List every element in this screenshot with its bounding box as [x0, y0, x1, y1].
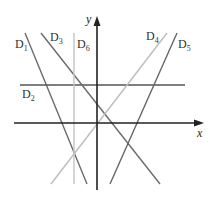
line-d1: [25, 33, 87, 184]
labels-layer: D1D2D3D4D5D6: [15, 29, 191, 103]
lines-diagram: x y D1D2D3D4D5D6: [0, 0, 210, 198]
label-d1: D1: [15, 37, 28, 53]
label-d6: D6: [77, 37, 90, 53]
label-d3: D3: [50, 30, 63, 46]
line-d5: [110, 33, 177, 184]
diagram-canvas: x y D1D2D3D4D5D6: [0, 0, 210, 198]
line-d4: [51, 33, 167, 184]
y-axis-arrow-icon: [94, 16, 101, 26]
y-axis-label: y: [85, 12, 92, 26]
line-d3: [41, 33, 160, 184]
label-d4: D4: [146, 29, 159, 45]
axes-layer: x y: [14, 12, 204, 190]
label-d5: D5: [178, 37, 191, 53]
lines-layer: [20, 33, 185, 184]
x-axis-label: x: [196, 126, 203, 140]
label-d2: D2: [22, 87, 35, 103]
